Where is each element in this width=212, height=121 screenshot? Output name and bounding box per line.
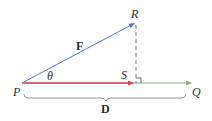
point-label-p: P bbox=[12, 85, 21, 99]
displacement-brace bbox=[24, 94, 186, 101]
vector-projection-diagram: P R S Q F θ D bbox=[0, 0, 212, 121]
diagram-svg: P R S Q F θ D bbox=[0, 0, 212, 121]
right-angle-marker bbox=[136, 78, 141, 83]
displacement-label: D bbox=[101, 102, 110, 116]
point-label-r: R bbox=[130, 7, 139, 21]
force-vector-pr bbox=[22, 24, 134, 84]
point-label-s: S bbox=[121, 68, 127, 82]
angle-theta-label: θ bbox=[47, 69, 53, 83]
point-label-q: Q bbox=[192, 85, 201, 99]
force-label: F bbox=[76, 39, 83, 53]
